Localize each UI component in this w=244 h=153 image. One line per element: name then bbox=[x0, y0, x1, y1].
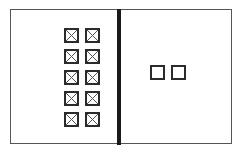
cross-icon bbox=[87, 30, 98, 41]
cross-icon bbox=[87, 72, 98, 83]
cross-icon bbox=[66, 30, 77, 41]
crossed-box bbox=[64, 28, 79, 43]
panel-divider bbox=[117, 9, 121, 145]
crossed-box bbox=[85, 91, 100, 106]
crossed-box bbox=[85, 70, 100, 85]
cross-icon bbox=[66, 51, 77, 62]
cross-icon bbox=[66, 114, 77, 125]
crossed-box bbox=[85, 28, 100, 43]
crossed-box bbox=[85, 112, 100, 127]
cross-icon bbox=[87, 51, 98, 62]
cross-icon bbox=[66, 72, 77, 83]
cross-icon bbox=[87, 93, 98, 104]
crossed-box bbox=[64, 70, 79, 85]
cross-icon bbox=[87, 114, 98, 125]
empty-box bbox=[171, 65, 186, 80]
crossed-box bbox=[64, 91, 79, 106]
outer-frame bbox=[10, 9, 232, 144]
crossed-box bbox=[85, 49, 100, 64]
empty-box bbox=[150, 65, 165, 80]
crossed-box bbox=[64, 49, 79, 64]
crossed-box bbox=[64, 112, 79, 127]
cross-icon bbox=[66, 93, 77, 104]
